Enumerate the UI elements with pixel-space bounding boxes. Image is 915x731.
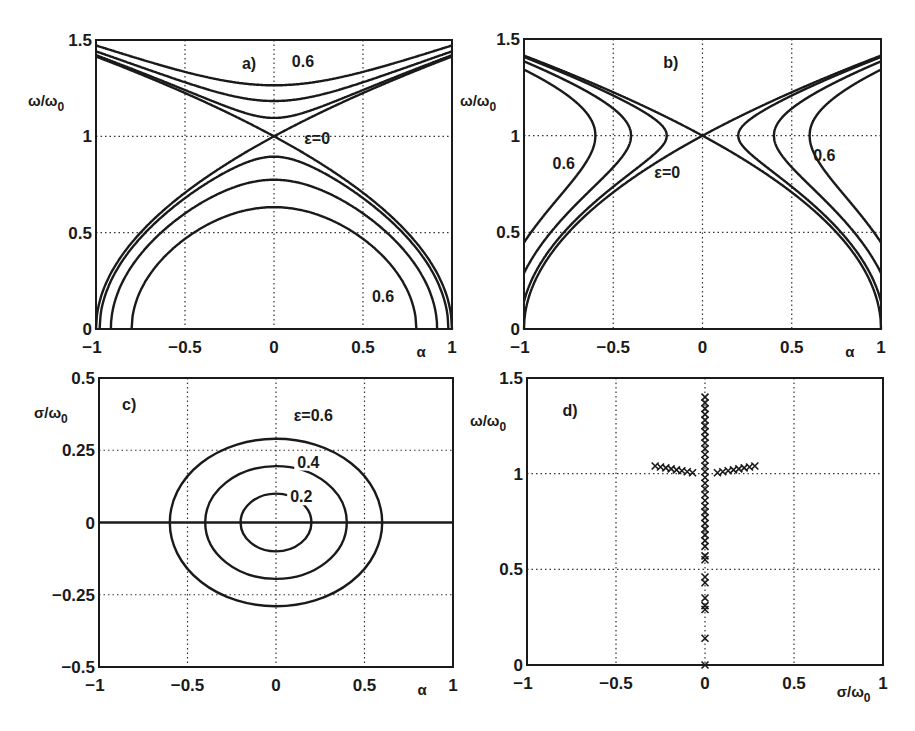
y-axis-label: σ/ω0 (34, 404, 68, 426)
y-tick-label: 0.5 (71, 369, 95, 388)
figure: −1−0.500.5100.511.5a)0.6ε=00.6ω/ω0α−1−0.… (0, 0, 915, 731)
y-tick-label: 0 (83, 320, 92, 339)
x-tick-label: 0.5 (780, 338, 804, 357)
x-tick-label: 0 (700, 674, 709, 693)
y-axis-label: ω/ω0 (460, 92, 497, 114)
y-tick-label: 0 (514, 656, 523, 675)
panel-a: −1−0.500.5100.511.5a)0.6ε=00.6ω/ω0α (28, 31, 457, 360)
y-tick-label: −0.25 (52, 586, 95, 605)
curve-upper-eps-0.6 (96, 45, 452, 85)
x-tick-label: −1 (513, 674, 532, 693)
x-axis-label: σ/ω0 (837, 683, 871, 705)
panel-c: −1−0.500.51−0.5−0.2500.250.5c)ε=0.60.40.… (34, 369, 458, 698)
y-axis-label: ω/ω0 (470, 412, 507, 434)
y-tick-label: 1.5 (68, 31, 92, 50)
curve-eps-0.2-left (524, 57, 667, 302)
x-tick-label: −1 (510, 338, 529, 357)
y-tick-label: 0.5 (499, 560, 523, 579)
y-tick-label: 1.5 (496, 30, 520, 49)
curve-annotation: ε=0.6 (294, 407, 333, 424)
x-tick-label: 0 (698, 338, 707, 357)
y-tick-label: 1 (83, 127, 92, 146)
x-tick-label: −0.5 (168, 338, 202, 357)
x-axis-label: α (416, 343, 426, 360)
x-tick-label: 0.5 (351, 338, 375, 357)
panel-b: −1−0.500.5100.511.5b)0.6ε=00.6ω/ω0α (460, 30, 886, 360)
y-tick-label: 0.5 (496, 223, 520, 242)
x-axis-label: α (845, 343, 855, 360)
panel-d: −1−0.500.5100.511.5d)ω/ω0σ/ω0 (470, 369, 888, 705)
curve-annotation: 0.6 (553, 155, 575, 172)
x-tick-label: −0.5 (599, 674, 633, 693)
x-tick-label: 1 (448, 676, 457, 695)
x-tick-label: 1 (876, 338, 885, 357)
y-tick-label: 0 (511, 320, 520, 339)
curve-annotation: 0.6 (292, 53, 314, 70)
y-tick-label: −0.5 (61, 658, 95, 677)
x-tick-label: −1 (85, 676, 104, 695)
x-marker (689, 469, 696, 476)
y-tick-label: 0 (86, 514, 95, 533)
y-tick-label: 1 (511, 127, 520, 146)
curve-annotation: 0.6 (813, 147, 835, 164)
curve-annotation: 0.4 (297, 454, 319, 471)
panel-label: d) (563, 402, 578, 419)
x-axis-label: α (418, 681, 428, 698)
y-tick-label: 1.5 (499, 369, 523, 388)
y-axis-label: ω/ω0 (28, 92, 65, 114)
x-tick-label: −0.5 (171, 676, 205, 695)
x-tick-label: 0 (271, 676, 280, 695)
x-tick-label: 1 (447, 338, 456, 357)
x-marker (702, 595, 709, 602)
x-marker (702, 394, 709, 401)
x-tick-label: 0.5 (353, 676, 377, 695)
y-tick-label: 0.5 (68, 224, 92, 243)
x-tick-label: 0 (269, 338, 278, 357)
panel-label: c) (122, 396, 136, 413)
curve-annotation: 0.6 (372, 288, 394, 305)
curve-annotation: ε=0 (304, 130, 330, 147)
panel-label: a) (242, 55, 256, 72)
curve-annotation: ε=0 (654, 164, 680, 181)
x-tick-label: −1 (82, 338, 101, 357)
x-marker (702, 573, 709, 580)
x-tick-label: −0.5 (596, 338, 630, 357)
y-tick-label: 0.25 (62, 441, 95, 460)
x-tick-label: 1 (878, 674, 887, 693)
curve-annotation: 0.2 (290, 488, 312, 505)
x-marker (751, 463, 758, 470)
x-tick-label: 0.5 (782, 674, 806, 693)
panel-label: b) (663, 54, 678, 71)
y-tick-label: 1 (514, 465, 523, 484)
curve-eps-0.2-right (738, 57, 881, 302)
